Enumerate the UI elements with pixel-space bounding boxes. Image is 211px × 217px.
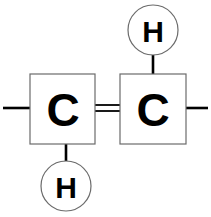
atom-label-hydrogen-bottom: H	[55, 171, 77, 204]
structure-canvas: C C H H	[0, 0, 211, 217]
atom-label-carbon-right: C	[136, 84, 169, 136]
atom-label-carbon-left: C	[46, 84, 79, 136]
chemical-structure-diagram: C C H H	[0, 0, 211, 217]
atom-label-hydrogen-top: H	[142, 15, 164, 48]
